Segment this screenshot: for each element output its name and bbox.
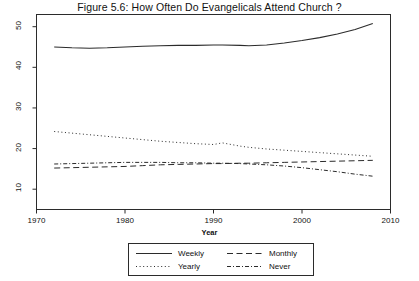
y-tick-label: 40	[8, 61, 28, 70]
x-tick-label: 2000	[282, 216, 322, 225]
legend-item-weekly[interactable]: Weekly	[135, 247, 204, 260]
legend-swatch-dashed	[226, 249, 264, 258]
x-tick-label: 2010	[371, 216, 411, 225]
legend-label: Yearly	[178, 262, 200, 271]
x-axis-ticks	[37, 210, 391, 214]
legend-item-monthly[interactable]: Monthly	[226, 247, 297, 260]
legend-swatch-solid	[135, 249, 173, 258]
figure-container: Figure 5.6: How Often Do Evangelicals At…	[0, 0, 419, 281]
plot-area	[0, 0, 419, 281]
legend-swatch-dotted	[135, 262, 173, 271]
legend-item-never[interactable]: Never	[226, 260, 290, 273]
x-axis-title: Year	[0, 228, 419, 237]
x-tick-label: 1970	[17, 216, 57, 225]
y-tick-label: 30	[8, 102, 28, 111]
plot-frame	[37, 15, 391, 210]
legend: WeeklyMonthlyYearlyNever	[128, 243, 314, 276]
legend-swatch-dash-dot	[226, 262, 264, 271]
legend-label: Monthly	[269, 249, 297, 258]
legend-label: Weekly	[178, 249, 204, 258]
y-axis-ticks	[33, 27, 37, 190]
y-tick-label: 50	[8, 21, 28, 30]
legend-item-yearly[interactable]: Yearly	[135, 260, 200, 273]
legend-label: Never	[269, 262, 290, 271]
x-tick-label: 1980	[105, 216, 145, 225]
y-tick-label: 20	[8, 143, 28, 152]
x-tick-label: 1990	[194, 216, 234, 225]
y-tick-label: 10	[8, 183, 28, 192]
